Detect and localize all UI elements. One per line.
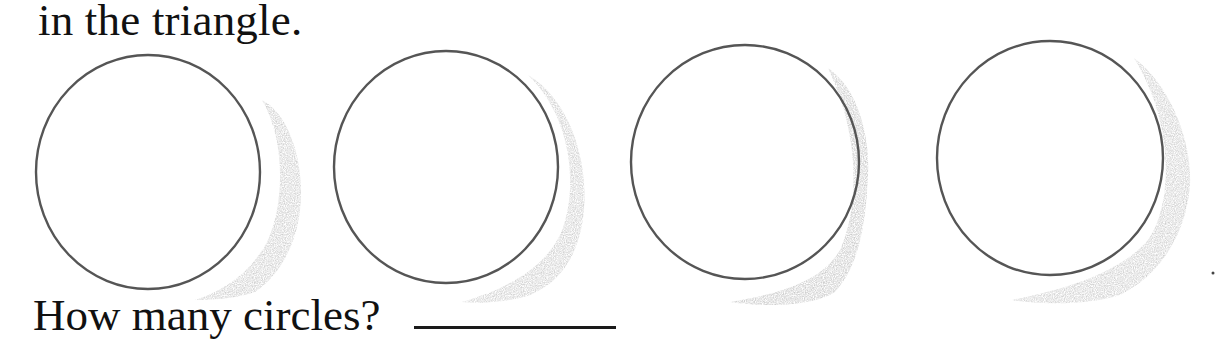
crayon-shading-4 [1012,58,1190,303]
circle-outline-4 [937,41,1163,275]
print-speck [1212,272,1215,275]
circle-outline-3 [631,45,859,279]
answer-blank-line[interactable] [414,326,616,329]
circle-3 [631,45,868,305]
question-prompt: How many circles? [33,291,380,339]
circle-4 [937,41,1190,303]
circle-outline-2 [334,51,558,283]
circle-1 [36,55,301,300]
circles-figure [0,0,1215,339]
crayon-shading-3 [730,68,868,305]
circle-2 [334,51,585,303]
circle-outline-1 [36,55,260,289]
crayon-shading-2 [462,75,585,303]
